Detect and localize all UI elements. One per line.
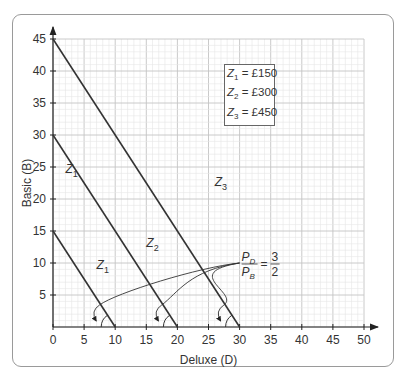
- svg-text:=: =: [261, 257, 268, 271]
- line-label: Z3: [214, 175, 227, 192]
- legend-item: Z1 = £150: [227, 66, 272, 85]
- x-axis-label: Deluxe (D): [180, 353, 237, 367]
- x-tick-label: 0: [50, 333, 57, 347]
- legend-box: Z1 = £150Z2 = £300Z3 = £450: [224, 64, 275, 126]
- y-tick-label: 45: [33, 32, 47, 46]
- y-tick-label: 40: [33, 64, 47, 78]
- y-tick-label: 25: [33, 160, 47, 174]
- y-tick-label: 10: [33, 256, 47, 270]
- x-tick-label: 45: [326, 333, 340, 347]
- line-label: Z1: [64, 162, 77, 179]
- svg-text:2: 2: [272, 265, 279, 279]
- svg-text:3: 3: [272, 250, 279, 264]
- x-tick-label: 10: [109, 333, 123, 347]
- line-label: Z1: [96, 258, 109, 275]
- svg-text:PB: PB: [242, 265, 256, 281]
- x-tick-label: 50: [357, 333, 371, 347]
- legend-item: Z2 = £300: [227, 85, 272, 104]
- grid: [53, 39, 364, 327]
- y-axis-label: Basic (B): [20, 159, 34, 208]
- y-tick-label: 5: [39, 288, 46, 302]
- y-tick-label: 35: [33, 96, 47, 110]
- x-tick-label: 35: [264, 333, 278, 347]
- x-tick-label: 25: [202, 333, 216, 347]
- chart-svg: 0510152025303540455051015202530354045 Z1…: [0, 0, 404, 379]
- x-tick-label: 20: [171, 333, 185, 347]
- legend-item: Z3 = £450: [227, 105, 272, 124]
- y-tick-label: 20: [33, 192, 47, 206]
- x-tick-label: 40: [295, 333, 309, 347]
- x-tick-label: 30: [233, 333, 247, 347]
- y-tick-label: 30: [33, 128, 47, 142]
- x-tick-label: 5: [81, 333, 88, 347]
- y-tick-label: 15: [33, 224, 47, 238]
- x-tick-label: 15: [140, 333, 154, 347]
